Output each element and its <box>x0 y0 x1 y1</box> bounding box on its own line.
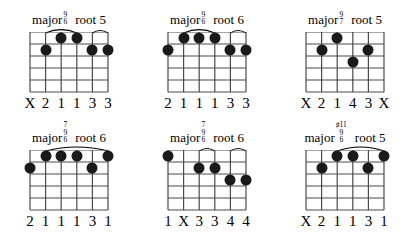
finger-dot <box>347 57 358 68</box>
fingering-value: 1 <box>54 96 69 111</box>
chord-diagram: major96root 5X21133 <box>0 0 138 118</box>
finger-dot <box>316 45 327 56</box>
finger-dot <box>87 163 98 174</box>
finger-dot <box>332 33 343 44</box>
fingering-value: X <box>377 96 392 111</box>
fingering-value: 1 <box>69 96 84 111</box>
finger-dot <box>225 175 236 186</box>
finger-dot <box>71 151 82 162</box>
fingering-value: 3 <box>85 96 100 111</box>
fingering-value: 1 <box>176 96 191 111</box>
finger-dot <box>194 163 205 174</box>
finger-dot <box>347 151 358 162</box>
fingering-value: 4 <box>223 214 238 229</box>
fingering-value: 1 <box>101 214 116 229</box>
fretboard-grid <box>138 32 276 102</box>
fingering-value: 3 <box>239 96 254 111</box>
fingering-value: 1 <box>345 214 360 229</box>
chord-extensions: 97 <box>339 11 343 25</box>
chord-diagram: major♯1196root 5X21131 <box>276 118 414 236</box>
chord-diagram: major97root 5X2143X <box>276 0 414 118</box>
finger-dot <box>363 163 374 174</box>
fingering-value: 3 <box>85 214 100 229</box>
chord-diagram: major796root 6211131 <box>0 118 138 236</box>
fingering-value: 1 <box>69 214 84 229</box>
fingering-value: 3 <box>361 96 376 111</box>
fingering-value: 3 <box>192 214 207 229</box>
chord-diagram: major96root 6211133 <box>138 0 276 118</box>
finger-dot <box>56 151 67 162</box>
chord-quality: major <box>308 13 338 26</box>
fingering-row: 1X3344 <box>138 211 276 231</box>
chord-extension: 7 <box>339 18 343 25</box>
chord-chart-sheet: major96root 5X21133major96root 6211133ma… <box>0 0 414 237</box>
finger-dot <box>178 33 189 44</box>
fingering-value: X <box>176 214 191 229</box>
finger-dot <box>225 45 236 56</box>
finger-dot <box>316 163 327 174</box>
finger-dot <box>241 45 252 56</box>
finger-dot <box>194 33 205 44</box>
fingering-value: 4 <box>239 214 254 229</box>
fingering-value: 1 <box>330 96 345 111</box>
fingering-value: 1 <box>207 96 222 111</box>
fretboard-grid <box>0 32 138 102</box>
fretboard-grid <box>276 150 414 220</box>
fingering-row: 211131 <box>0 211 138 231</box>
finger-dot <box>56 33 67 44</box>
finger-dot <box>25 163 36 174</box>
fingering-row: X21133 <box>0 93 138 113</box>
fingering-value: 1 <box>161 214 176 229</box>
finger-dot <box>103 151 114 162</box>
finger-dot <box>40 45 51 56</box>
fingering-row: 211133 <box>138 93 276 113</box>
finger-dot <box>363 45 374 56</box>
fingering-value: 2 <box>314 214 329 229</box>
chord-diagram: major796root 61X3344 <box>138 118 276 236</box>
fingering-value: 4 <box>345 96 360 111</box>
fingering-value: X <box>23 96 38 111</box>
fingering-value: 2 <box>38 96 53 111</box>
finger-dot <box>209 163 220 174</box>
finger-dot <box>241 175 252 186</box>
chord-label: major97root 5 <box>276 4 414 26</box>
fingering-value: 1 <box>377 214 392 229</box>
chord-root-label: root 5 <box>351 13 382 26</box>
fingering-value: 3 <box>101 96 116 111</box>
fingering-value: 1 <box>330 214 345 229</box>
fingering-value: X <box>299 96 314 111</box>
fingering-value: 1 <box>38 214 53 229</box>
finger-dot <box>163 45 174 56</box>
fingering-value: 2 <box>161 96 176 111</box>
finger-dot <box>103 45 114 56</box>
finger-dot <box>87 45 98 56</box>
finger-dot <box>71 33 82 44</box>
fretboard-grid <box>0 150 138 220</box>
fretboard-grid <box>138 150 276 220</box>
fingering-value: 3 <box>223 96 238 111</box>
fingering-row: X2143X <box>276 93 414 113</box>
finger-dot <box>332 151 343 162</box>
finger-dot <box>40 151 51 162</box>
finger-dot <box>379 151 390 162</box>
fingering-value: 1 <box>54 214 69 229</box>
finger-dot <box>209 33 220 44</box>
finger-dot <box>163 151 174 162</box>
fretboard-grid <box>276 32 414 102</box>
fingering-value: 3 <box>361 214 376 229</box>
fingering-value: 3 <box>207 214 222 229</box>
fingering-value: 1 <box>192 96 207 111</box>
fingering-value: X <box>299 214 314 229</box>
fingering-value: 2 <box>23 214 38 229</box>
fingering-value: 2 <box>314 96 329 111</box>
fingering-row: X21131 <box>276 211 414 231</box>
